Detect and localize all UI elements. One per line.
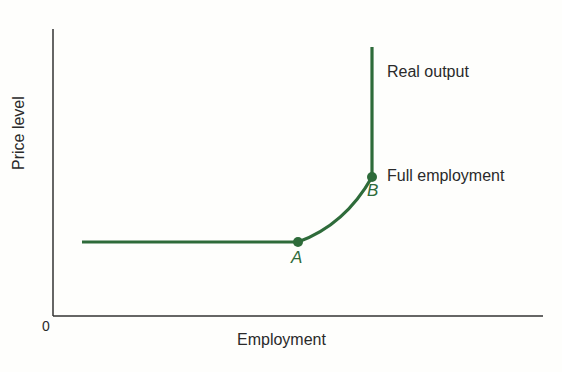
point-b-label: B bbox=[367, 181, 378, 201]
y-axis-label: Price level bbox=[10, 96, 28, 170]
point-a-marker bbox=[293, 237, 303, 247]
full-employment-annotation: Full employment bbox=[387, 167, 504, 185]
real-output-annotation: Real output bbox=[387, 63, 469, 81]
chart: Price level 0 Employment A B Real output… bbox=[0, 0, 562, 372]
chart-plot bbox=[0, 0, 562, 372]
x-axis-label: Employment bbox=[237, 331, 326, 349]
supply-curve bbox=[82, 47, 372, 242]
origin-label: 0 bbox=[42, 318, 50, 334]
point-a-label: A bbox=[291, 248, 302, 268]
